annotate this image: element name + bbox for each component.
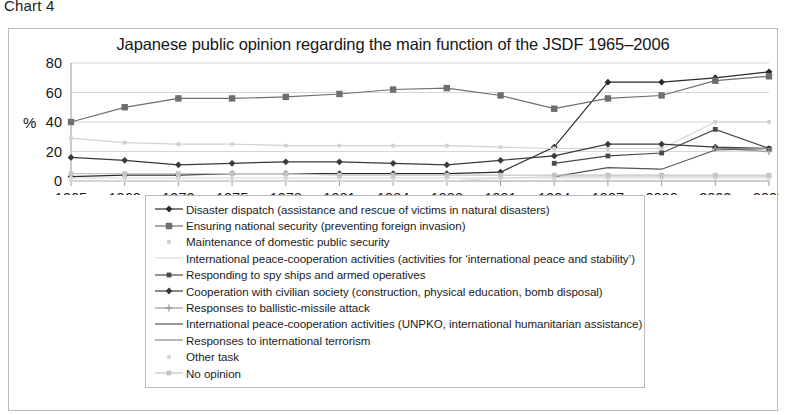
- data-point-marker: [166, 288, 173, 295]
- data-point-marker: [176, 171, 181, 176]
- data-point-marker: [498, 145, 502, 149]
- data-point-marker: [229, 95, 235, 101]
- legend-item[interactable]: International peace-cooperation activiti…: [152, 316, 638, 332]
- legend-item-label: International peace-cooperation activiti…: [186, 317, 642, 330]
- chart-title: Japanese public opinion regarding the ma…: [9, 35, 777, 54]
- data-point-marker: [336, 91, 342, 97]
- data-point-marker: [391, 143, 395, 147]
- data-point-marker: [337, 143, 341, 147]
- data-point-marker: [552, 146, 556, 150]
- data-point-marker: [69, 176, 73, 180]
- data-point-marker: [605, 95, 611, 101]
- legend-item[interactable]: No opinion: [152, 365, 638, 381]
- data-series: [68, 68, 773, 180]
- data-point-marker: [713, 173, 718, 178]
- y-axis-tick-label: 0: [54, 173, 62, 189]
- figure-caption: Chart 4: [4, 0, 55, 14]
- data-point-marker: [230, 142, 234, 146]
- data-point-marker: [68, 119, 74, 125]
- legend-item-label: Responding to spy ships and armed operat…: [186, 268, 425, 281]
- data-point-marker: [166, 304, 173, 311]
- legend-item-label: Disaster dispatch (assistance and rescue…: [186, 203, 550, 216]
- x-axis-tick-label: 1969: [109, 190, 141, 195]
- data-point-marker: [444, 85, 450, 91]
- legend-item[interactable]: Ensuring national security (preventing f…: [152, 217, 638, 233]
- legend-item-label: Other task: [186, 350, 239, 363]
- legend-item-label: International peace-cooperation activiti…: [186, 252, 635, 265]
- data-point-marker: [230, 176, 234, 180]
- x-axis-tick-label: 1965: [55, 190, 87, 195]
- legend-item-label: Responses to ballistic-missile attack: [186, 301, 370, 314]
- legend-marker-icon: [152, 284, 186, 298]
- legend-item[interactable]: Maintenance of domestic public security: [152, 234, 638, 250]
- data-point-marker: [713, 120, 717, 124]
- legend-item-label: No opinion: [186, 367, 241, 380]
- data-series: [69, 120, 771, 151]
- data-point-marker: [69, 171, 74, 176]
- data-point-marker: [121, 104, 127, 110]
- data-point-marker: [551, 106, 557, 112]
- data-point-marker: [658, 141, 665, 148]
- legend-item-label: Ensuring national security (preventing f…: [186, 219, 465, 232]
- legend-marker-icon: [152, 317, 186, 331]
- data-point-marker: [551, 153, 558, 160]
- legend-item[interactable]: Responding to spy ships and armed operat…: [152, 267, 638, 283]
- data-point-marker: [766, 73, 772, 79]
- data-point-marker: [713, 127, 718, 132]
- legend-item[interactable]: Responses to international terrorism: [152, 332, 638, 348]
- data-point-marker: [606, 173, 611, 178]
- data-point-marker: [605, 141, 612, 148]
- data-point-marker: [230, 171, 235, 176]
- data-point-marker: [176, 176, 180, 180]
- data-point-marker: [390, 86, 396, 92]
- data-point-marker: [659, 173, 664, 178]
- data-series: [68, 177, 773, 181]
- data-point-marker: [606, 154, 611, 159]
- data-point-marker: [284, 176, 288, 180]
- legend-marker-icon: [152, 268, 186, 282]
- data-point-marker: [445, 143, 449, 147]
- chart-legend: Disaster dispatch (assistance and rescue…: [145, 195, 645, 388]
- data-point-marker: [283, 171, 288, 176]
- data-point-marker: [176, 142, 180, 146]
- legend-marker-icon: [152, 219, 186, 233]
- legend-marker-icon: [152, 301, 186, 315]
- legend-item[interactable]: Other task: [152, 349, 638, 365]
- x-axis-tick-label: 2003: [699, 190, 731, 195]
- x-axis-tick-label: 2006: [753, 190, 779, 195]
- data-point-marker: [498, 173, 503, 178]
- data-point-marker: [712, 78, 718, 84]
- legend-item[interactable]: Cooperation with civilian society (const…: [152, 283, 638, 299]
- legend-item[interactable]: International peace-cooperation activiti…: [152, 250, 638, 266]
- legend-item[interactable]: Responses to ballistic-missile attack: [152, 299, 638, 315]
- data-point-marker: [767, 120, 771, 124]
- data-point-marker: [552, 173, 557, 178]
- y-axis-tick-label: 80: [46, 55, 62, 71]
- data-point-marker: [337, 173, 342, 178]
- x-axis-tick-label: 2000: [645, 190, 677, 195]
- data-point-marker: [122, 171, 127, 176]
- data-point-marker: [659, 151, 664, 156]
- data-point-marker: [283, 94, 289, 100]
- legend-item-label: Responses to international terrorism: [186, 334, 370, 347]
- y-axis-title: %: [23, 114, 36, 131]
- legend-marker-icon: [152, 366, 186, 380]
- line-chart-plot: 020406080%196519691972197519781981198419…: [9, 55, 779, 195]
- data-point-marker: [68, 154, 75, 161]
- data-point-marker: [122, 140, 126, 144]
- legend-item[interactable]: Disaster dispatch (assistance and rescue…: [152, 201, 638, 217]
- legend-item-label: Cooperation with civilian society (const…: [186, 285, 603, 298]
- data-point-marker: [166, 206, 173, 213]
- data-point-marker: [284, 143, 288, 147]
- legend-item-label: Maintenance of domestic public security: [186, 235, 390, 248]
- data-point-marker: [658, 79, 665, 86]
- y-axis-tick-label: 20: [46, 144, 62, 160]
- legend-marker-icon: [152, 333, 186, 347]
- data-point-marker: [282, 158, 289, 165]
- legend-marker-icon: [152, 251, 186, 265]
- data-point-marker: [336, 158, 343, 165]
- data-point-marker: [497, 92, 503, 98]
- data-series: [68, 73, 772, 125]
- data-point-marker: [69, 136, 73, 140]
- data-point-marker: [121, 157, 128, 164]
